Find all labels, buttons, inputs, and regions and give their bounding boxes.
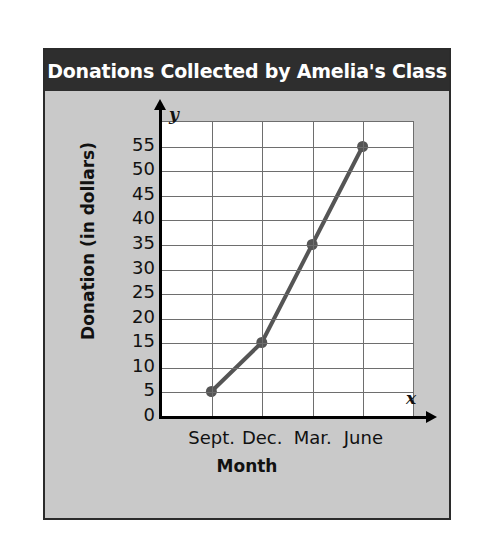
gridline-horizontal [161,368,413,369]
y-tick-label: 15 [111,330,155,351]
gridline-vertical [212,122,213,416]
gridline-horizontal [161,147,413,148]
gridline-horizontal [161,319,413,320]
x-axis-label: Month [45,456,449,476]
y-tick-label: 5 [111,379,155,400]
x-axis-tick-labels: Sept.Dec.Mar.June [45,427,449,453]
gridline-vertical [313,122,314,416]
gridline-vertical [363,122,364,416]
chart-panel: 0510152025303540455055 y x Sept.Dec.Mar.… [45,91,449,518]
gridline-horizontal [161,392,413,393]
x-axis-marker: x [406,388,416,408]
gridline-vertical [262,122,263,416]
y-tick-label: 25 [111,281,155,302]
y-tick-label: 35 [111,232,155,253]
x-axis-arrow-icon [426,411,437,423]
y-axis-tick-labels: 0510152025303540455055 [107,91,155,431]
y-tick-label: 10 [111,355,155,376]
y-axis-arrow-icon [154,99,166,110]
y-tick-label: 20 [111,306,155,327]
y-axis-label: Donation (in dollars) [78,141,98,341]
gridline-horizontal [161,294,413,295]
y-tick-label: 45 [111,183,155,204]
y-axis-line [159,109,162,418]
y-axis-marker: y [169,104,179,124]
gridline-horizontal [161,270,413,271]
gridline-horizontal [161,245,413,246]
x-tick-label: June [328,427,398,448]
y-tick-label: 55 [111,134,155,155]
y-tick-label: 30 [111,257,155,278]
y-tick-label: 50 [111,158,155,179]
y-tick-label: 0 [111,404,155,425]
x-axis-line [159,416,427,419]
plot-area [161,121,414,416]
page-title: Donations Collected by Amelia's Class [47,60,447,82]
gridline-horizontal [161,343,413,344]
chart-figure: Donations Collected by Amelia's Class 05… [43,48,451,520]
gridline-horizontal [161,220,413,221]
y-tick-label: 40 [111,207,155,228]
gridline-horizontal [161,196,413,197]
gridline-horizontal [161,171,413,172]
chart-title-bar: Donations Collected by Amelia's Class [45,50,449,91]
